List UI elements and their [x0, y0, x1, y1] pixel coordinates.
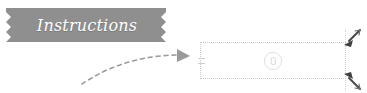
- resize-handle-bottom-right[interactable]: [336, 66, 366, 92]
- dotted-content-box[interactable]: [200, 42, 346, 79]
- ribbon-title: Instructions: [6, 8, 166, 42]
- circle-icon: [264, 51, 283, 70]
- handle-stem-top-right: [349, 30, 360, 41]
- arrow-head: [177, 49, 190, 62]
- handle-stem-bottom-right: [349, 78, 360, 89]
- curved-dashed-arrow: [78, 44, 203, 88]
- instructions-slide-canvas: Instructions: [0, 0, 367, 93]
- resize-handle-top-right[interactable]: [336, 28, 366, 54]
- box-left-tick-lower: [198, 63, 205, 64]
- box-left-tick-upper: [198, 58, 205, 59]
- instructions-ribbon-banner: Instructions: [6, 8, 166, 42]
- arrow-shaft: [82, 55, 176, 84]
